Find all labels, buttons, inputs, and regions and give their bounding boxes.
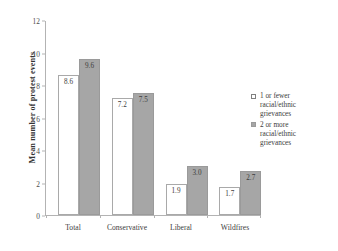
x-axis-category-label: Wildfires bbox=[208, 223, 262, 232]
bar-value-label: 2.7 bbox=[246, 174, 255, 182]
legend-entry: 2 or more racial/ethnic grievances bbox=[251, 121, 338, 148]
y-axis-tick-mark bbox=[42, 21, 45, 22]
bar-value-label: 7.5 bbox=[139, 96, 148, 104]
y-axis-tick-mark bbox=[42, 183, 45, 184]
bar: 7.2 bbox=[112, 98, 133, 215]
bar: 8.6 bbox=[58, 75, 79, 215]
y-axis-tick-mark bbox=[42, 118, 45, 119]
bar-chart: Mean number of protest events 024681012 … bbox=[0, 0, 338, 251]
x-axis-labels: TotalConservativeLiberalWildfires bbox=[46, 223, 262, 232]
x-axis-tick-mark bbox=[154, 215, 155, 218]
bar-value-label: 7.2 bbox=[118, 101, 127, 109]
y-axis-tick-mark bbox=[42, 86, 45, 87]
plot-area: 024681012 8.69.67.27.51.93.01.72.7 bbox=[45, 21, 261, 216]
bar-value-label: 8.6 bbox=[64, 78, 73, 86]
bar-group: 7.27.5 bbox=[100, 21, 154, 215]
bar: 2.7 bbox=[240, 171, 261, 215]
bar-value-label: 3.0 bbox=[193, 169, 202, 177]
x-axis-tick-mark bbox=[100, 215, 101, 218]
bar: 1.9 bbox=[166, 184, 187, 215]
bar: 9.6 bbox=[79, 59, 100, 215]
x-axis-category-label: Total bbox=[46, 223, 100, 232]
bar-group: 1.93.0 bbox=[154, 21, 208, 215]
x-axis-tick-mark bbox=[207, 215, 208, 218]
bar-group: 8.69.6 bbox=[46, 21, 100, 215]
bar-value-label: 9.6 bbox=[85, 62, 94, 70]
legend-swatch-icon bbox=[251, 94, 256, 99]
bar: 3.0 bbox=[187, 166, 208, 215]
x-axis-category-label: Conservative bbox=[100, 223, 154, 232]
bar-value-label: 1.9 bbox=[172, 187, 181, 195]
bar: 1.7 bbox=[219, 187, 240, 215]
bar: 7.5 bbox=[133, 93, 154, 215]
y-axis-tick-mark bbox=[42, 151, 45, 152]
bar-groups: 8.69.67.27.51.93.01.72.7 bbox=[46, 21, 261, 215]
bar-value-label: 1.7 bbox=[225, 190, 234, 198]
chart-legend: 1 or fewer racial/ethnic grievances 2 or… bbox=[251, 92, 338, 149]
y-axis-title: Mean number of protest events bbox=[28, 13, 37, 203]
legend-label-line: grievances bbox=[260, 110, 338, 119]
legend-label-line: grievances bbox=[260, 139, 338, 148]
y-axis-tick-mark bbox=[42, 216, 45, 217]
legend-entry: 1 or fewer racial/ethnic grievances bbox=[251, 92, 338, 119]
x-axis-tick-mark bbox=[260, 215, 261, 218]
x-axis-category-label: Liberal bbox=[154, 223, 208, 232]
x-axis-tick-mark bbox=[46, 215, 47, 218]
legend-swatch-icon bbox=[251, 122, 256, 127]
y-axis-tick-mark bbox=[42, 53, 45, 54]
